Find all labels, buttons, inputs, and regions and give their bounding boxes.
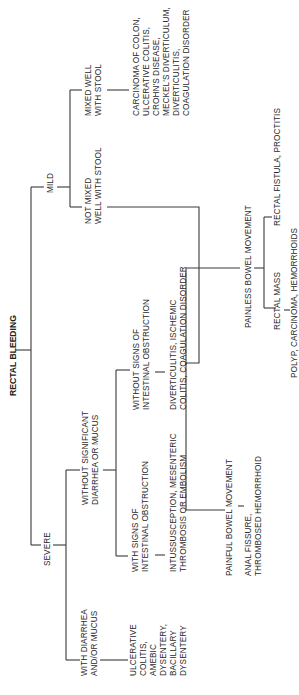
node-mild: MILD bbox=[46, 173, 55, 193]
node-without-diarrhea-line2: DIARRHEA OR MUCUS bbox=[91, 414, 100, 505]
node-rectal-fistula: RECTAL FISTULA, PROCTITIS bbox=[273, 108, 282, 226]
mass-causes: POLYP, CARCINOMA, HEMORRHOIDS bbox=[290, 228, 299, 378]
node-root: RECTAL BLEEDING bbox=[8, 315, 18, 396]
with-obstruction-causes-line2: THROMBOSIS OR EMBOLISM bbox=[179, 455, 188, 572]
mixed-causes-line2: ULCERATIVE COLITIS, bbox=[142, 27, 151, 116]
node-not-mixed-line2: WELL WITH STOOL bbox=[94, 147, 103, 224]
node-rectal-mass: RECTAL MASS bbox=[273, 272, 282, 330]
diarrhea-causes-line5: BACILLARY bbox=[169, 630, 178, 676]
mixed-causes-line4: MECKEL'S DIVERTICULUM, bbox=[162, 7, 171, 116]
diarrhea-causes-line1: ULCERATIVE bbox=[129, 624, 138, 676]
node-with-obstruction-line1: WITH SIGNS OF bbox=[131, 508, 140, 572]
node-not-mixed-line1: NOT MIXED bbox=[84, 178, 93, 224]
without-obstruction-causes-line1: DIVERTICULITIS, ISCHEMIC bbox=[169, 299, 178, 410]
painful-causes-line2: THROMBOSED HEMORRHOID bbox=[254, 456, 263, 576]
node-mixed-well-line2: WITH STOOL bbox=[94, 64, 103, 116]
diarrhea-causes-line2: COLITIS, bbox=[139, 641, 148, 676]
node-painful: PAINFUL BOWEL MOVEMENT bbox=[225, 459, 234, 576]
diarrhea-causes-line4: DYSENTERY, bbox=[159, 624, 168, 676]
without-obstruction-causes-line2: COLITIS, COAGULATION DISORDER bbox=[179, 266, 188, 410]
rectal-bleeding-flowchart: RECTAL BLEEDING MILD MIXED WELL WITH STO… bbox=[0, 0, 299, 695]
painful-causes-line1: ANAL FISSURE, bbox=[244, 514, 253, 576]
node-without-obstruction-line2: INTESTINAL OBSTRUCTION bbox=[142, 299, 151, 410]
node-with-diarrhea-line1: WITH DIARRHEA bbox=[80, 609, 89, 676]
mixed-causes-line3: CROHN'S DISEASE, bbox=[152, 37, 161, 116]
node-without-diarrhea-line1: WITHOUT SIGNIFICANT bbox=[81, 411, 90, 505]
node-labels: RECTAL BLEEDING MILD MIXED WELL WITH STO… bbox=[8, 7, 299, 676]
diarrhea-causes-line3: AMEBIC bbox=[149, 644, 158, 676]
with-obstruction-causes-line1: INTUSSUSCEPTION, MESENTERIC bbox=[169, 433, 178, 572]
node-without-obstruction-line1: WITHOUT SIGNS OF bbox=[132, 329, 141, 410]
node-severe: SEVERE bbox=[43, 532, 52, 566]
mixed-causes-line1: CARCINOMA OF COLON, bbox=[132, 17, 141, 116]
mixed-causes-line5: DIVERTICULITIS, bbox=[172, 49, 181, 116]
node-with-obstruction-line2: INTESTINAL OBSTRUCTION bbox=[141, 461, 150, 572]
flowchart-svg: RECTAL BLEEDING MILD MIXED WELL WITH STO… bbox=[0, 0, 299, 695]
node-mixed-well-line1: MIXED WELL bbox=[84, 64, 93, 116]
mixed-causes-line6: COAGULATION DISORDER bbox=[182, 10, 191, 116]
node-painless: PAINLESS BOWEL MOVEMENT bbox=[244, 205, 253, 328]
node-with-diarrhea-line2: AND/OR MUCUS bbox=[90, 610, 99, 676]
bowel-spine bbox=[186, 363, 225, 510]
diarrhea-causes-line6: DYSENTERY bbox=[179, 625, 188, 676]
